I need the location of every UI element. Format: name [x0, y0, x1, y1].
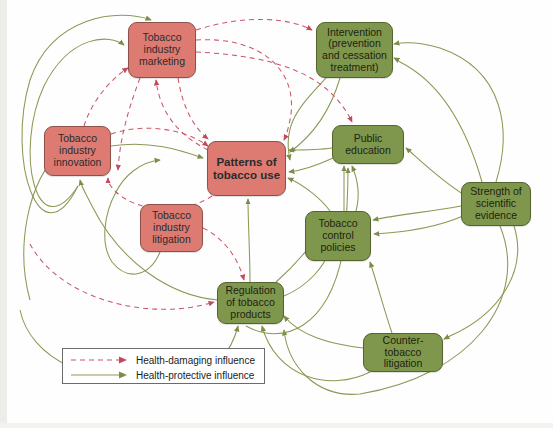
legend-item-health-protective: Health-protective influence [69, 368, 258, 382]
node-intervention[interactable]: Intervention (prevention and cessation t… [316, 22, 393, 78]
diagram-canvas: Tobacco industry marketing Intervention … [0, 0, 553, 428]
node-regulation-of-tobacco-products[interactable]: Regulation of tobacco products [217, 282, 284, 324]
legend-item-health-damaging: Health-damaging influence [69, 353, 258, 367]
node-label: Tobacco industry marketing [132, 32, 192, 67]
node-label: Public education [336, 133, 400, 157]
solid-arrow-icon [69, 369, 131, 381]
node-label: Intervention (prevention and cessation t… [320, 27, 389, 74]
node-counter-tobacco-litigation[interactable]: Counter-tobacco litigation [363, 333, 443, 372]
node-label: Patterns of tobacco use [211, 156, 282, 182]
node-label: Counter-tobacco litigation [367, 335, 439, 370]
legend-label: Health-protective influence [136, 370, 254, 381]
node-label: Strength of scientific evidence [465, 186, 527, 221]
node-tobacco-control-policies[interactable]: Tobacco control policies [305, 211, 371, 261]
node-patterns-of-tobacco-use[interactable]: Patterns of tobacco use [207, 141, 286, 196]
health-protective-edges [20, 15, 518, 394]
node-label: Tobacco industry innovation [48, 133, 107, 168]
legend-label: Health-damaging influence [136, 355, 255, 366]
node-strength-of-scientific-evidence[interactable]: Strength of scientific evidence [461, 182, 531, 226]
node-public-education[interactable]: Public education [332, 125, 404, 164]
node-tobacco-industry-litigation[interactable]: Tobacco industry litigation [140, 204, 203, 252]
node-label: Regulation of tobacco products [221, 285, 280, 320]
legend: Health-damaging influence Health-protect… [62, 348, 265, 384]
node-tobacco-industry-marketing[interactable]: Tobacco industry marketing [128, 22, 196, 78]
node-label: Tobacco industry litigation [144, 210, 199, 245]
node-label: Tobacco control policies [309, 218, 367, 253]
dashed-arrow-icon [69, 354, 131, 366]
node-tobacco-industry-innovation[interactable]: Tobacco industry innovation [44, 126, 111, 176]
